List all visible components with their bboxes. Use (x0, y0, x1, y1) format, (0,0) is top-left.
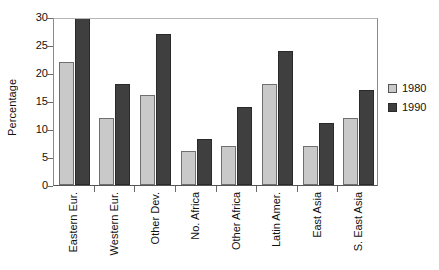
y-axis-tick-mark (47, 74, 53, 75)
bar (197, 139, 212, 185)
bar (181, 151, 196, 185)
x-axis-tick-label: Latin Amer. (270, 192, 282, 247)
bar (75, 18, 90, 185)
bar (262, 84, 277, 185)
x-axis-tick-label-group: Eastern Eur.Western Eur.Other Dev.No. Af… (53, 192, 378, 270)
legend-swatch-icon (388, 103, 397, 112)
legend-entry: 1990 (388, 99, 438, 115)
x-axis-tick-label: No. Africa (189, 192, 201, 240)
y-axis-title: Percentage (6, 52, 20, 162)
bar (99, 118, 114, 185)
bar-group (99, 19, 130, 185)
bars-layer (54, 19, 377, 185)
bar (221, 146, 236, 185)
bar (156, 34, 171, 185)
bar-chart-figure: Percentage 051015202530 Eastern Eur.West… (0, 0, 439, 270)
bar-group (303, 19, 334, 185)
bar-group (343, 19, 374, 185)
y-axis-tick-mark (47, 18, 53, 19)
bar (278, 51, 293, 185)
legend-label: 1990 (402, 102, 426, 113)
x-axis-tick-label: Other Africa (230, 192, 242, 250)
legend-label: 1980 (402, 83, 426, 94)
x-axis-tick-label: Western Eur. (108, 192, 120, 255)
x-axis-tick-label: S. East Asia (352, 192, 364, 251)
bar-group (181, 19, 212, 185)
bar-group (140, 19, 171, 185)
x-axis-tick-label: East Asia (311, 192, 323, 238)
bar (319, 123, 334, 185)
bar (303, 146, 318, 185)
y-axis-tick-label-group: 051015202530 (22, 0, 48, 270)
bar-group (221, 19, 252, 185)
bar (59, 62, 74, 185)
y-axis-tick-mark (47, 186, 53, 187)
bar-group (59, 19, 90, 185)
y-axis-tick-mark (47, 46, 53, 47)
bar-group (262, 19, 293, 185)
legend-entry: 1980 (388, 80, 438, 96)
legend-swatch-icon (388, 84, 397, 93)
bar (140, 95, 155, 185)
legend: 19801990 (388, 80, 438, 118)
y-axis-tick-mark (47, 102, 53, 103)
y-axis-tick-mark (47, 158, 53, 159)
plot-area (53, 18, 378, 186)
bar (115, 84, 130, 185)
bar (237, 107, 252, 185)
x-axis-tick-label: Eastern Eur. (67, 192, 79, 253)
bar (343, 118, 358, 185)
y-axis-tick-mark (47, 130, 53, 131)
x-axis-tick-label: Other Dev. (149, 192, 161, 244)
bar (359, 90, 374, 185)
